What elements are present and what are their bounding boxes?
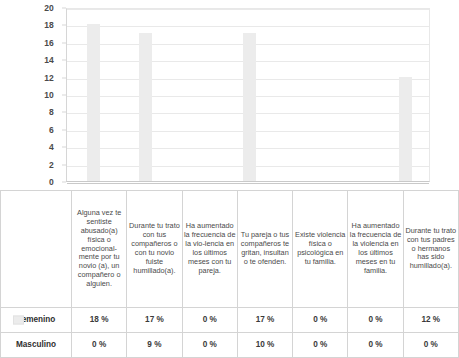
series-row: Femenino18 %17 %0 %17 %0 %0 %12 % [1,308,459,333]
category-label: Tu pareja o tus compañeros te gritan, in… [237,191,292,308]
data-value-cell: 0 % [403,333,458,358]
category-label: Ha aumentado la frecuencia de la vio-len… [182,191,237,308]
data-value-cell: 10 % [237,333,292,358]
data-value-cell: 0 % [348,308,403,333]
y-axis-tick-label: 4 [49,142,54,152]
data-value-cell: 0 % [182,333,237,358]
data-table-body: Alguna vez te sentiste abusado(a) física… [1,191,459,358]
y-axis-tick-label: 2 [49,160,54,170]
bar [87,24,100,181]
data-value-cell: 17 % [127,308,182,333]
y-axis-tick-label: 16 [44,38,54,48]
category-row: Alguna vez te sentiste abusado(a) física… [1,191,459,308]
gridline [67,183,429,184]
table-corner [1,191,72,308]
category-label: Durante tu trato con tus compañeros o co… [127,191,182,308]
data-value-cell: 12 % [403,308,458,333]
y-axis-tick-label: 14 [44,55,54,65]
y-axis: 20181614121086420 [0,0,62,190]
y-axis-tick-label: 20 [44,3,54,13]
y-axis-tick-label: 18 [44,20,54,30]
category-label: Ha aumentado la frecuencia de la violenc… [348,191,403,308]
data-value-cell: 0 % [293,308,348,333]
data-value-cell: 0 % [182,308,237,333]
data-value-cell: 0 % [348,333,403,358]
data-table: Alguna vez te sentiste abusado(a) física… [0,190,459,358]
legend-swatch-icon [13,316,24,325]
category-label: Durante tu trato con tus padres o herman… [403,191,458,308]
data-value-cell: 9 % [127,333,182,358]
legend-item-masculino: Masculino [1,333,72,358]
plot-region: 20181614121086420 [0,0,434,190]
data-value-cell: 0 % [72,333,127,358]
category-label: Alguna vez te sentiste abusado(a) física… [72,191,127,308]
bar [243,33,256,181]
bar [139,33,152,181]
plot-area [66,8,430,182]
y-axis-tick-label: 10 [44,90,54,100]
legend-item-femenino: Femenino [1,308,72,333]
y-axis-tick-label: 6 [49,125,54,135]
y-axis-tick-label: 0 [49,177,54,187]
y-axis-tick-label: 8 [49,107,54,117]
y-axis-tick-label: 12 [44,73,54,83]
category-label: Existe violencia física o psicológica en… [293,191,348,308]
data-table-region: Alguna vez te sentiste abusado(a) física… [0,190,434,350]
series-name-label: Masculino [16,340,56,349]
data-value-cell: 18 % [72,308,127,333]
bar [399,77,412,181]
data-value-cell: 0 % [293,333,348,358]
data-value-cell: 17 % [237,308,292,333]
series-row: Masculino0 %9 %0 %10 %0 %0 %0 % [1,333,459,358]
bars-layer [67,9,429,181]
